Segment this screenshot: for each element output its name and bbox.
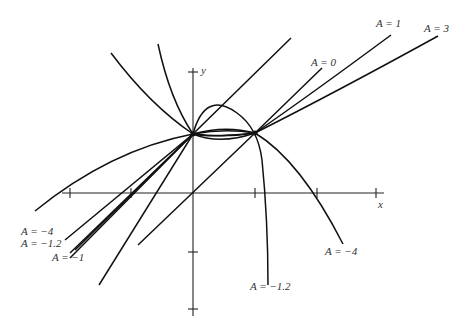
label-Am4-left: A = −4 xyxy=(20,225,54,237)
label-A1: A = 1 xyxy=(375,17,401,29)
curve-steep-left-1 xyxy=(111,53,255,139)
label-Am1_2-left: A = −1.2 xyxy=(20,237,62,249)
label-A0: A = 0 xyxy=(310,56,336,68)
label-A3: A = 3 xyxy=(423,22,449,34)
solution-curves-diagram: x y A = 1 A = 3 A = 0 A = −4 A = −1.2 A … xyxy=(0,0,471,331)
curve-Am1_2 xyxy=(65,105,268,285)
label-Am1-left: A = −1 xyxy=(51,251,84,263)
x-axis-label: x xyxy=(377,198,383,210)
x-axis xyxy=(62,188,384,198)
y-axis-label: y xyxy=(200,64,206,76)
label-Am4-right: A = −4 xyxy=(324,245,358,257)
curve-A3 xyxy=(75,36,438,250)
label-Am1_2-bottom: A = −1.2 xyxy=(249,280,291,292)
curve-A1 xyxy=(70,35,391,258)
